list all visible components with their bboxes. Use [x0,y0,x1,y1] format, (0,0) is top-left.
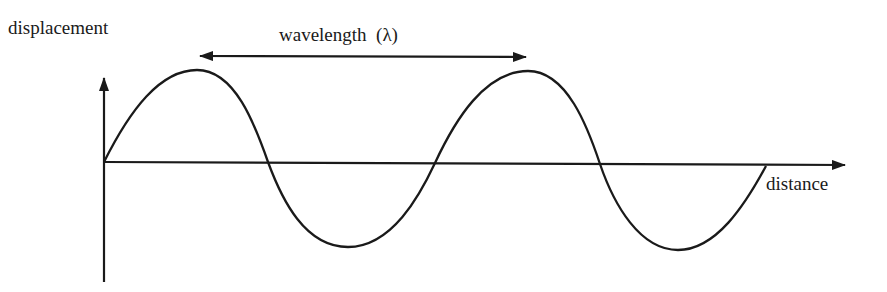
y-axis-label: displacement [8,18,108,37]
wavelength-arrow [200,56,526,57]
wave-diagram [0,0,887,292]
sine-wave-curve [104,70,766,250]
x-axis-label: distance [766,174,828,193]
wavelength-label: wavelength (λ) [279,25,398,44]
x-axis [104,162,845,165]
